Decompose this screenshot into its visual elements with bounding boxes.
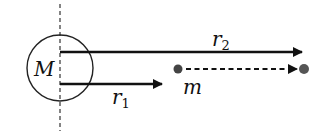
mass-M-label: M [33, 57, 55, 81]
gravity-diagram: M r2 r1 m [0, 0, 326, 131]
small-mass-m-dot [174, 65, 183, 74]
moved-mass-dot [299, 64, 309, 74]
small-mass-m-label: m [183, 75, 202, 99]
r1-label: r1 [112, 85, 130, 111]
r2-label: r2 [212, 27, 230, 53]
